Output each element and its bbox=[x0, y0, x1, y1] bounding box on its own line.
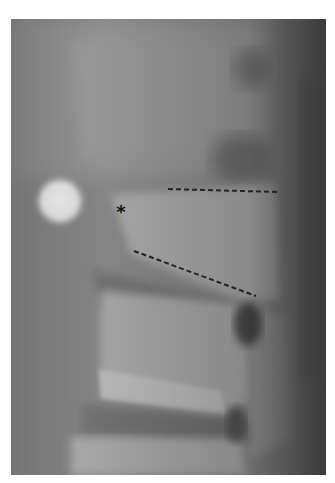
xray-rendering bbox=[11, 19, 326, 475]
asterisk-marker: * bbox=[114, 205, 128, 219]
xray-image bbox=[11, 19, 326, 475]
